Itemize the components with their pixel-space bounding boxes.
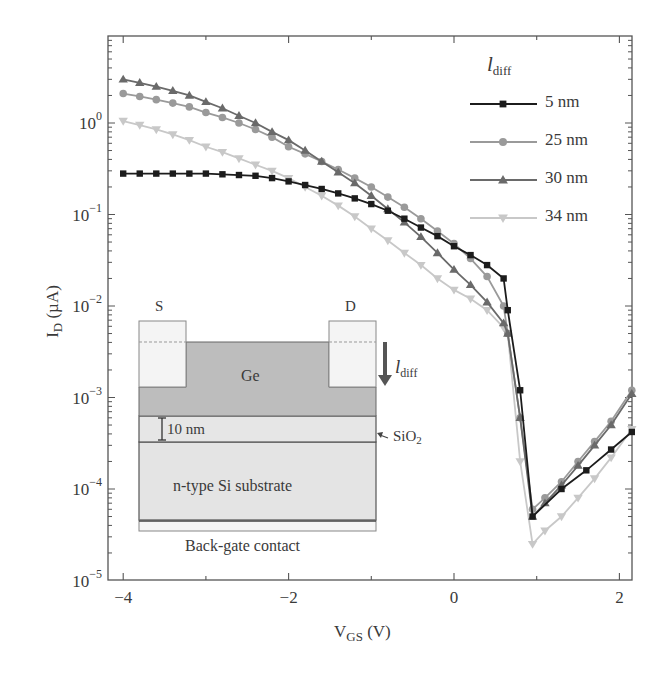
source-contact — [139, 321, 186, 387]
legend-sample-0 — [470, 101, 537, 108]
legend-entry-0: 5 nm — [545, 92, 579, 112]
y-axis-label-main: I — [43, 332, 62, 338]
inset-backgate-label: Back-gate contact — [185, 537, 300, 555]
legend-entry-1: 25 nm — [545, 130, 588, 150]
y-axis-label: ID (µA) — [43, 272, 66, 352]
drain-contact — [329, 321, 376, 387]
x-axis-label-main: V — [334, 622, 346, 641]
inset-ldiff-label: ldiff — [395, 356, 417, 381]
legend-entry-3: 34 nm — [545, 206, 588, 226]
x-axis-label-sub: GS — [346, 629, 363, 644]
inset-ge-label: Ge — [241, 367, 260, 385]
inset-substrate-label: n-type Si substrate — [173, 477, 292, 495]
inset-oxide-label: SiO2 — [393, 428, 422, 446]
inset-oxide-thickness: 10 nm — [167, 421, 205, 438]
x-tick-label: −2 — [269, 588, 309, 608]
inset-source-label: S — [155, 298, 163, 315]
legend-title: ldiff — [487, 52, 511, 79]
y-tick-label: 100 — [56, 109, 102, 134]
legend-sample-3 — [470, 215, 537, 223]
inset-ldiff-sub: diff — [400, 366, 417, 380]
inset-drain-label: D — [345, 298, 356, 315]
legend-sample-2 — [470, 175, 537, 183]
y-axis-label-unit: (µA) — [43, 285, 62, 318]
y-tick-label: 10−3 — [56, 384, 102, 409]
inset-oxide-main: SiO — [393, 428, 416, 444]
y-axis-label-sub: D — [50, 323, 65, 332]
x-tick-label: 2 — [599, 588, 639, 608]
x-tick-label: 0 — [434, 588, 474, 608]
legend-entry-2: 30 nm — [545, 168, 588, 188]
y-tick-label: 10−4 — [56, 475, 102, 500]
y-tick-label: 10−1 — [56, 201, 102, 226]
legend — [470, 101, 537, 223]
legend-sample-1 — [470, 138, 537, 146]
x-tick-label: −4 — [103, 588, 143, 608]
x-axis-label-unit: (V) — [367, 622, 391, 641]
y-tick-label: 10−5 — [56, 567, 102, 592]
x-axis-label: VGS (V) — [334, 622, 391, 645]
inset-oxide-sub: 2 — [416, 434, 422, 446]
legend-title-sub: diff — [493, 63, 512, 78]
